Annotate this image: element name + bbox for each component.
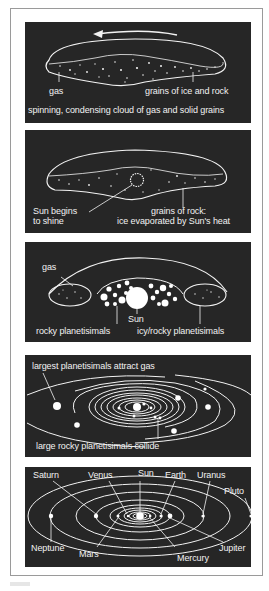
label-earth: Earth [165, 470, 186, 480]
caption-remnant [10, 582, 30, 586]
sun-icon [131, 174, 144, 187]
neptune-dot [49, 514, 53, 518]
jupiter-dot [168, 514, 173, 519]
label-largest-planetisimals: largest planetisimals attract gas [32, 361, 155, 371]
panel-stage-3-planetisimals: gas Sun rocky planetisimals icy/rocky pl… [25, 242, 251, 342]
label-ice-evaporated: ice evaporated by Sun's heat [117, 216, 230, 226]
label-gas: gas [42, 262, 56, 272]
label-gas: gas [49, 86, 63, 96]
label-venus: Venus [88, 470, 113, 480]
label-sun: Sun [138, 468, 154, 478]
mars-dot [117, 515, 120, 518]
label-rocky-planetisimals: rocky planetisimals [36, 326, 110, 336]
earth-dot [160, 515, 163, 518]
sun-icon [136, 512, 144, 520]
label-rocky-collide: large rocky planetisimals collide [36, 441, 159, 451]
caption-stage-1: spinning, condensing cloud of gas and so… [28, 105, 224, 115]
planets [49, 512, 251, 520]
label-grains-ice-rock: grains of ice and rock [145, 86, 228, 96]
label-grains-rock: grains of rock: [151, 206, 206, 216]
saturn-dot [94, 514, 98, 518]
label-mars: Mars [79, 549, 99, 559]
panel-stage-2-sun-shines: Sun begins to shine grains of rock: ice … [25, 130, 251, 233]
planetisimals [101, 281, 178, 309]
mercury-dot [149, 515, 151, 517]
label-neptune: Neptune [31, 543, 64, 553]
label-sun: Sun [128, 314, 144, 324]
label-uranus: Uranus [197, 470, 225, 480]
label-to-shine: to shine [33, 216, 64, 226]
panel-stage-4-accretion: largest planetisimals attract gas large … [25, 355, 251, 457]
label-sun-begins: Sun begins [33, 206, 77, 216]
panel-stage-5-solar-system: Saturn Venus Sun Earth Uranus Pluto Nept… [25, 467, 251, 567]
label-icy-rocky-planetisimals: icy/rocky planetisimals [137, 326, 224, 336]
leader-lines [51, 481, 251, 547]
grain-dots [59, 59, 216, 82]
uranus-dot [201, 514, 204, 517]
rotation-arrow-icon [97, 31, 177, 35]
label-pluto: Pluto [224, 486, 244, 496]
venus-dot [127, 515, 129, 517]
label-mercury: Mercury [177, 553, 209, 563]
pluto-dot [249, 514, 251, 517]
label-saturn: Saturn [33, 470, 59, 480]
panel-stage-1-cloud: gas grains of ice and rock spinning, con… [25, 22, 251, 123]
label-jupiter: Jupiter [219, 543, 245, 553]
